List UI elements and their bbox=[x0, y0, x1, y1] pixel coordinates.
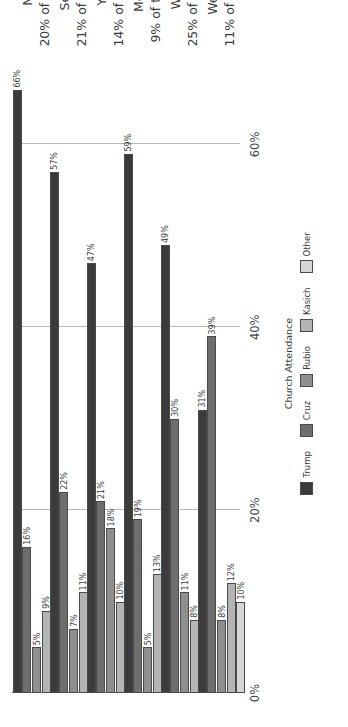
bar-row: 11% bbox=[180, 53, 189, 693]
legend-swatch-icon bbox=[300, 424, 313, 437]
chart-legend: TrumpCruzRubioKasichOther bbox=[300, 0, 313, 727]
legend-title: Church Attendance bbox=[283, 0, 294, 727]
bar-group: 31%39%8%12%10% bbox=[203, 53, 240, 693]
category-label-never: Never20% of the Sample bbox=[18, 0, 55, 47]
bar-rubio bbox=[32, 647, 41, 693]
category-name: Never bbox=[20, 0, 37, 6]
bar-row: 18% bbox=[106, 53, 115, 693]
bar-rubio bbox=[217, 620, 226, 693]
category-name: Yearly bbox=[94, 0, 111, 6]
bar-value-label: 12% bbox=[227, 564, 236, 584]
legend-swatch-icon bbox=[300, 319, 313, 332]
bar-row: 30% bbox=[170, 53, 179, 693]
bar-trump bbox=[50, 172, 59, 693]
legend-item-cruz[interactable]: Cruz bbox=[300, 401, 313, 437]
x-tick-label: 40% bbox=[248, 315, 262, 341]
bar-row: 47% bbox=[87, 53, 96, 693]
legend-swatch-icon bbox=[300, 374, 313, 387]
bar-value-label: 10% bbox=[236, 582, 245, 602]
bar-row: 21% bbox=[96, 53, 105, 693]
category-label-monthly: Monthly9% of the Sample bbox=[129, 0, 166, 47]
legend-swatch-icon bbox=[300, 482, 313, 495]
bar-trump bbox=[124, 154, 133, 693]
x-tick-label: 20% bbox=[248, 497, 262, 523]
bar-value-label: 22% bbox=[59, 472, 68, 492]
bar-value-label: 57% bbox=[50, 152, 59, 172]
legend-swatch-icon bbox=[300, 261, 313, 274]
category-sublabel: 20% of the Sample bbox=[37, 0, 54, 47]
category-sublabel: 25% of the Sample bbox=[185, 0, 202, 47]
category-sublabel: 11% of the Sample bbox=[222, 0, 239, 47]
bar-value-label: 8% bbox=[217, 605, 226, 620]
category-sublabel: 21% of the Sample bbox=[74, 0, 91, 47]
x-tick-label: 60% bbox=[248, 132, 262, 158]
bar-row: 49% bbox=[161, 53, 170, 693]
bar-row: 22% bbox=[59, 53, 68, 693]
bar-value-label: 66% bbox=[13, 70, 22, 90]
category-label-yearly: Yearly14% of the Sample bbox=[92, 0, 129, 47]
rotated-figure-wrapper: 66%16%5%9%3%57%22%7%11%3%47%21%18%10%4%5… bbox=[0, 0, 348, 727]
bar-row: 12% bbox=[227, 53, 236, 693]
bar-rubio bbox=[143, 647, 152, 693]
category-label-weekly: Weekly25% of the Sample bbox=[166, 0, 203, 47]
bar-row: 5% bbox=[143, 53, 152, 693]
bar-row: 8% bbox=[217, 53, 226, 693]
bar-row: 66% bbox=[13, 53, 22, 693]
legend-label: Cruz bbox=[302, 401, 312, 420]
bar-row: 31% bbox=[198, 53, 207, 693]
bar-row: 59% bbox=[124, 53, 133, 693]
bar-trump bbox=[161, 245, 170, 693]
bar-value-label: 31% bbox=[198, 390, 207, 410]
category-name: Weekly bbox=[168, 0, 185, 10]
legend-label: Rubio bbox=[302, 346, 312, 370]
bar-row: 19% bbox=[133, 53, 142, 693]
legend-label: Kasich bbox=[302, 288, 312, 315]
bar-row: 10% bbox=[236, 53, 245, 693]
legend-label: Other bbox=[302, 232, 312, 256]
legend-item-other[interactable]: Other bbox=[300, 232, 313, 273]
bar-value-label: 49% bbox=[161, 225, 170, 245]
bar-row: 16% bbox=[22, 53, 31, 693]
bar-value-label: 16% bbox=[22, 527, 31, 547]
bar-cruz bbox=[207, 336, 216, 693]
bar-trump bbox=[13, 90, 22, 693]
category-name: Monthly bbox=[131, 0, 148, 12]
bar-other bbox=[236, 602, 245, 693]
bar-value-label: 47% bbox=[87, 244, 96, 264]
category-sublabel: 14% of the Sample bbox=[111, 0, 128, 47]
bar-row: 57% bbox=[50, 53, 59, 693]
bar-value-label: 59% bbox=[124, 134, 133, 154]
bar-trump bbox=[87, 263, 96, 693]
legend-item-trump[interactable]: Trump bbox=[300, 451, 313, 495]
bar-value-label: 18% bbox=[106, 509, 115, 529]
bar-value-label: 30% bbox=[170, 399, 179, 419]
bar-cruz bbox=[133, 519, 142, 693]
bar-value-label: 7% bbox=[69, 614, 78, 629]
bar-cruz bbox=[170, 419, 179, 693]
bar-rubio bbox=[106, 528, 115, 693]
plot-area: 66%16%5%9%3%57%22%7%11%3%47%21%18%10%4%5… bbox=[18, 53, 240, 693]
bar-cruz bbox=[96, 501, 105, 693]
bar-rubio bbox=[180, 592, 189, 693]
legend-label: Trump bbox=[302, 451, 312, 478]
bar-value-label: 21% bbox=[96, 481, 105, 501]
chart-figure: 66%16%5%9%3%57%22%7%11%3%47%21%18%10%4%5… bbox=[0, 0, 348, 727]
bar-cruz bbox=[22, 547, 31, 693]
bar-row: 7% bbox=[69, 53, 78, 693]
bar-value-label: 5% bbox=[143, 633, 152, 648]
x-tick-label: 0% bbox=[248, 684, 262, 702]
bar-cruz bbox=[59, 492, 68, 693]
category-name: Seldom bbox=[57, 0, 74, 10]
legend-item-kasich[interactable]: Kasich bbox=[300, 288, 313, 332]
bar-trump bbox=[198, 410, 207, 693]
legend-item-rubio[interactable]: Rubio bbox=[300, 346, 313, 387]
bar-rubio bbox=[69, 629, 78, 693]
bar-value-label: 39% bbox=[207, 317, 216, 337]
bar-value-label: 11% bbox=[180, 573, 189, 593]
category-label-weeklyplus: Weekly+11% of the Sample bbox=[203, 0, 240, 47]
bar-value-label: 5% bbox=[32, 633, 41, 648]
category-name: Weekly+ bbox=[205, 0, 222, 15]
category-sublabel: 9% of the Sample bbox=[148, 0, 165, 43]
bar-value-label: 19% bbox=[133, 500, 142, 520]
category-label-seldom: Seldom21% of the Sample bbox=[55, 0, 92, 47]
